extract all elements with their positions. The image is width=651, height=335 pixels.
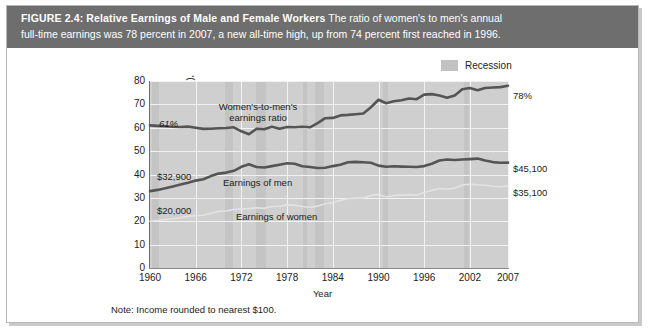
figure-subtitle-line2: full-time earnings was 78 percent in 200… (21, 27, 624, 43)
figure-number: FIGURE 2.4: (21, 12, 83, 24)
figure-note: Note: Income rounded to nearest $100. (111, 304, 276, 315)
x-tick-label: 2007 (486, 272, 530, 283)
annotation-start-ratio: 61% (159, 118, 178, 129)
x-tick-label: 1984 (311, 272, 355, 283)
annotation-ratio-line2: earnings ratio (203, 112, 313, 123)
figure-title: Relative Earnings of Male and Female Wor… (86, 12, 325, 24)
y-tick-label: 60 (117, 123, 145, 133)
x-tick-label: 1972 (219, 272, 263, 283)
annotation-end-men: $45,100 (513, 163, 547, 174)
x-tick-label: 1990 (357, 272, 401, 283)
figure-page: FIGURE 2.4: Relative Earnings of Male an… (0, 0, 651, 335)
y-tick-label: 80 (117, 76, 145, 86)
x-tick-label: 1978 (265, 272, 309, 283)
annotation-ratio-line1: Women's-to-men's (203, 101, 313, 112)
annotation-start-men: $32,900 (157, 171, 191, 182)
y-tick-label: 20 (117, 216, 145, 226)
x-axis-title: Year (7, 288, 638, 299)
x-tick-label: 1966 (174, 272, 218, 283)
y-tick-label: 50 (117, 146, 145, 156)
y-tick-label: 40 (117, 170, 145, 180)
x-tick-label: 1960 (128, 272, 172, 283)
y-tick-label: 30 (117, 193, 145, 203)
chart-canvas: Recession Earnings in thousands (2007 do… (7, 48, 638, 322)
figure-caption: FIGURE 2.4: Relative Earnings of Male an… (7, 6, 638, 48)
annotation-end-ratio: 78% (513, 90, 532, 101)
y-tick-label: 10 (117, 240, 145, 250)
x-tick-label: 1996 (402, 272, 446, 283)
series-line (150, 184, 508, 221)
annotation-end-women: $35,100 (513, 187, 547, 198)
y-tick-label: 70 (117, 99, 145, 109)
annotation-men-line: Earnings of men (223, 177, 292, 188)
annotation-start-women: $20,000 (157, 205, 191, 216)
series-line (150, 159, 508, 192)
figure-subtitle-line1: The ratio of women's to men's annual (328, 12, 502, 24)
annotation-women-line: Earnings of women (236, 211, 317, 222)
